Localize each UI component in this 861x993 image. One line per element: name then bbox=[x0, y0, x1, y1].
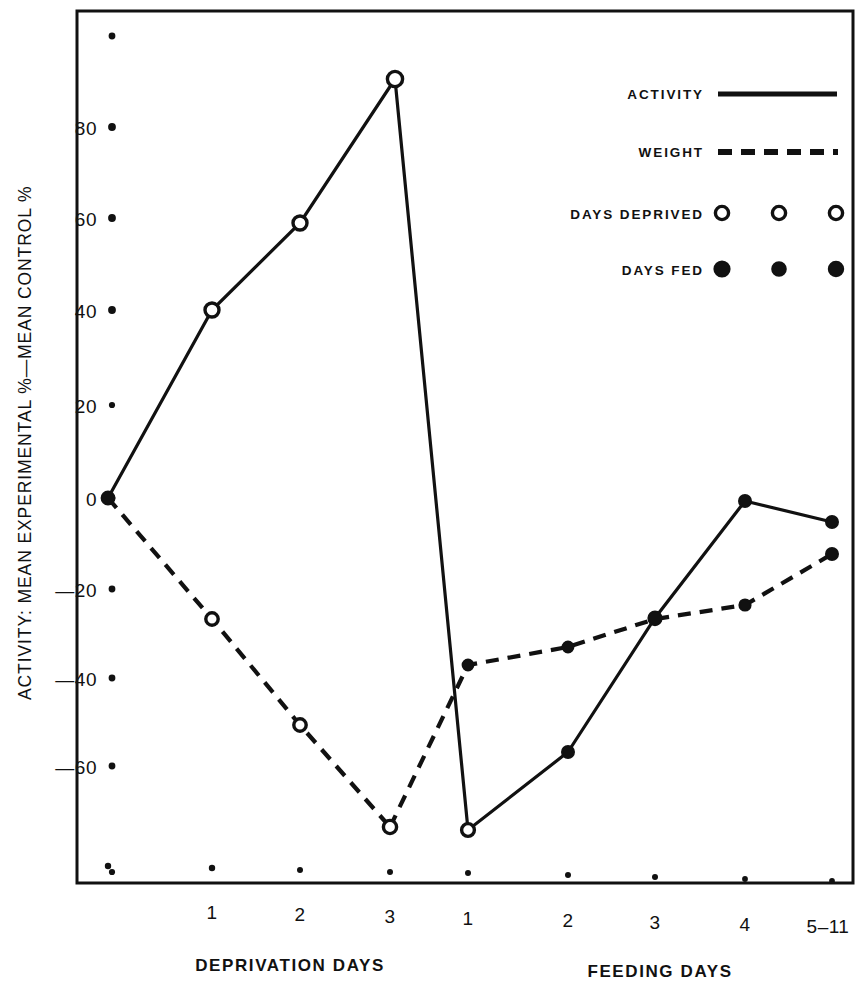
x-tick-label-fed-5-11: 5–11 bbox=[807, 916, 850, 937]
chart-legend: ACTIVITY WEIGHT DAYS DEPRIVED DAYS FED bbox=[570, 87, 843, 278]
legend-open-circle-icon-1 bbox=[715, 206, 728, 219]
x-tick-label-dep-3: 3 bbox=[384, 906, 395, 927]
activity-line bbox=[108, 79, 832, 830]
x-tick-label-fed-4: 4 bbox=[739, 914, 750, 935]
series-weight bbox=[108, 498, 838, 834]
x-axis-title-feeding: FEEDING DAYS bbox=[587, 962, 732, 981]
y-tick-marks bbox=[108, 33, 116, 876]
activity-point-dep-2 bbox=[293, 216, 307, 230]
legend-filled-circle-icon-2 bbox=[772, 262, 786, 276]
x-tick-label-fed-3: 3 bbox=[649, 912, 660, 933]
activity-point-fed-2 bbox=[562, 746, 574, 758]
weight-point-fed-5-11 bbox=[826, 548, 838, 560]
activity-point-dep-3 bbox=[387, 71, 402, 86]
activity-point-dep-1 bbox=[205, 303, 219, 317]
x-tick-marks bbox=[105, 863, 835, 884]
x-axis-title-deprivation: DEPRIVATION DAYS bbox=[195, 956, 385, 975]
y-tick-label-60: 60 bbox=[75, 209, 97, 230]
weight-point-fed-2 bbox=[563, 642, 574, 653]
activity-point-fed-5-11 bbox=[826, 516, 838, 528]
plot-frame bbox=[77, 11, 853, 883]
legend-label-activity: ACTIVITY bbox=[627, 87, 704, 102]
legend-open-circle-icon-3 bbox=[829, 206, 842, 219]
weight-point-fed-1 bbox=[463, 660, 474, 671]
chart-canvas: 80 60 40 20 0 —20 —40 —60 ACTIVITY: MEAN… bbox=[0, 0, 861, 993]
x-tick-labels: 1 2 3 1 2 3 4 5–11 bbox=[206, 902, 849, 937]
x-tick-label-dep-1: 1 bbox=[206, 902, 217, 923]
legend-label-days-fed: DAYS FED bbox=[622, 263, 704, 278]
figure-container: 80 60 40 20 0 —20 —40 —60 ACTIVITY: MEAN… bbox=[0, 0, 861, 993]
activity-point-fed-3 bbox=[648, 611, 661, 624]
series-activity bbox=[102, 71, 838, 836]
legend-filled-circle-icon-1 bbox=[714, 261, 729, 276]
legend-filled-circle-icon-3 bbox=[829, 262, 843, 276]
y-tick-label-80: 80 bbox=[75, 118, 97, 139]
weight-point-dep-2 bbox=[294, 719, 306, 731]
weight-line-feeding bbox=[390, 554, 832, 827]
activity-point-fed-1 bbox=[462, 824, 475, 837]
legend-label-weight: WEIGHT bbox=[639, 145, 704, 160]
x-tick-label-fed-2: 2 bbox=[562, 910, 573, 931]
x-tick-label-fed-1: 1 bbox=[462, 908, 473, 929]
y-tick-label-neg20: —20 bbox=[55, 580, 97, 601]
y-axis-title: ACTIVITY: MEAN EXPERIMENTAL %—MEAN CONTR… bbox=[15, 186, 35, 700]
y-tick-label-40: 40 bbox=[75, 301, 97, 322]
activity-point-fed-4 bbox=[739, 495, 751, 507]
weight-line-deprivation bbox=[108, 498, 390, 827]
activity-point-day-0 bbox=[102, 492, 115, 505]
y-tick-label-neg60: —60 bbox=[55, 757, 97, 778]
weight-point-dep-3 bbox=[383, 820, 396, 833]
y-tick-label-neg40: —40 bbox=[55, 669, 97, 690]
weight-point-fed-4 bbox=[739, 599, 750, 610]
legend-label-days-deprived: DAYS DEPRIVED bbox=[570, 207, 704, 222]
x-tick-label-dep-2: 2 bbox=[294, 904, 305, 925]
y-tick-label-20: 20 bbox=[75, 396, 97, 417]
y-tick-label-0: 0 bbox=[86, 489, 97, 510]
weight-point-dep-1 bbox=[206, 613, 218, 625]
legend-open-circle-icon-2 bbox=[772, 206, 785, 219]
